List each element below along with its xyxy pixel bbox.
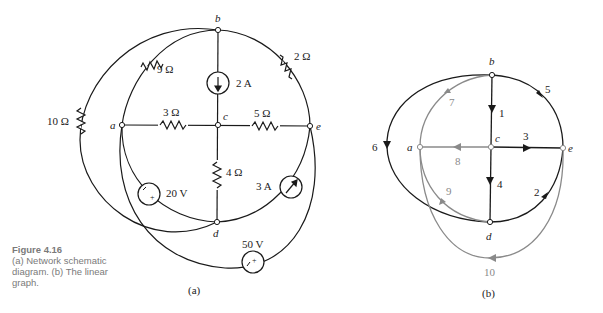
label-3-ohm: 3 Ω bbox=[163, 106, 179, 118]
branch-label-9: 9 bbox=[446, 185, 452, 197]
figure-canvas: + + b a c e d 9 Ω 2 Ω 10 Ω 3 Ω 5 Ω 4 Ω 2… bbox=[0, 0, 603, 313]
arrow-6-icon bbox=[383, 141, 391, 149]
arrow-1-icon bbox=[488, 105, 496, 113]
branch-label-10: 10 bbox=[484, 266, 496, 278]
graph-node-c-label: c bbox=[495, 132, 500, 144]
label-5-ohm: 5 Ω bbox=[254, 107, 270, 119]
svg-text:+: + bbox=[150, 193, 155, 202]
label-3a: 3 A bbox=[256, 180, 272, 192]
schematic-labels: b a c e d 9 Ω 2 Ω 10 Ω 3 Ω 5 Ω 4 Ω 2 A 3… bbox=[47, 12, 321, 297]
graph-arrows bbox=[383, 88, 548, 262]
svg-text:+: + bbox=[252, 256, 257, 265]
arrow-3-icon bbox=[523, 144, 531, 152]
graph-node-e-label: e bbox=[568, 142, 573, 154]
arrow-8-icon bbox=[453, 143, 461, 151]
arrow-4-icon bbox=[486, 177, 494, 185]
label-10-ohm: 10 Ω bbox=[47, 115, 69, 127]
graph-labels: b a c e d 1 2 3 4 5 6 7 8 9 10 (b) bbox=[372, 55, 573, 300]
branch-label-2: 2 bbox=[534, 186, 540, 198]
branch-label-1: 1 bbox=[499, 107, 505, 119]
linear-graph bbox=[387, 75, 563, 258]
label-9-ohm: 9 Ω bbox=[157, 63, 173, 75]
arrow-2-icon bbox=[541, 192, 548, 199]
node-a-label: a bbox=[110, 119, 116, 131]
label-20v: 20 V bbox=[166, 187, 188, 199]
network-schematic bbox=[80, 28, 315, 268]
sublabel-a: (a) bbox=[188, 284, 201, 297]
graph-node-a-label: a bbox=[407, 141, 413, 153]
branch-6 bbox=[387, 75, 492, 222]
branch-label-8: 8 bbox=[455, 155, 461, 167]
graph-node-d-label: d bbox=[486, 230, 492, 242]
branch-label-3: 3 bbox=[523, 130, 529, 142]
label-2a: 2 A bbox=[236, 77, 252, 89]
branch-7 bbox=[420, 75, 492, 147]
node-d-label: d bbox=[213, 227, 219, 239]
node-c-label: c bbox=[223, 110, 228, 122]
branch-label-7: 7 bbox=[449, 96, 455, 108]
label-50v: 50 V bbox=[242, 238, 264, 250]
branch-label-6: 6 bbox=[372, 141, 378, 153]
node-e-label: e bbox=[316, 120, 321, 132]
branch-label-4: 4 bbox=[497, 178, 503, 190]
label-4-ohm: 4 Ω bbox=[226, 166, 242, 178]
sublabel-b: (b) bbox=[482, 287, 495, 300]
wire-20v-branch bbox=[122, 125, 217, 222]
resistor-2-ohm bbox=[280, 55, 292, 79]
arrow-10-icon bbox=[488, 254, 496, 262]
voltage-source-20v bbox=[138, 183, 160, 205]
node-b-label: b bbox=[215, 12, 221, 24]
graph-node-b-label: b bbox=[489, 55, 495, 67]
label-2-ohm: 2 Ω bbox=[294, 50, 310, 62]
branch-label-5: 5 bbox=[545, 83, 551, 95]
